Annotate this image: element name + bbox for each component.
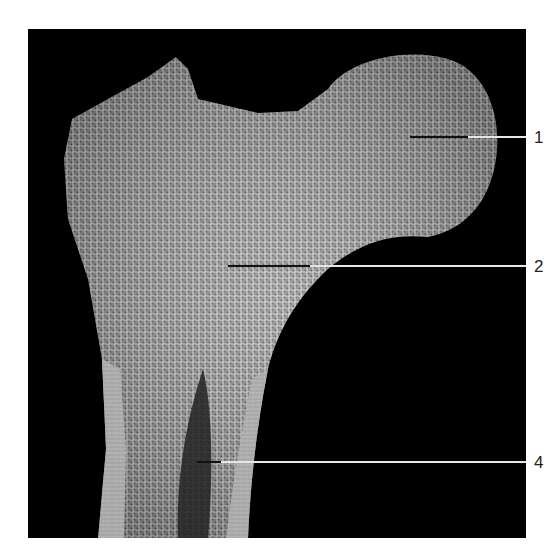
label-4: 4 [534,454,543,471]
label-1: 1 [534,129,543,146]
leader-line-1 [410,136,526,138]
label-2: 2 [534,258,543,275]
leader-line-4 [197,461,526,463]
leader-line-2 [228,265,526,267]
